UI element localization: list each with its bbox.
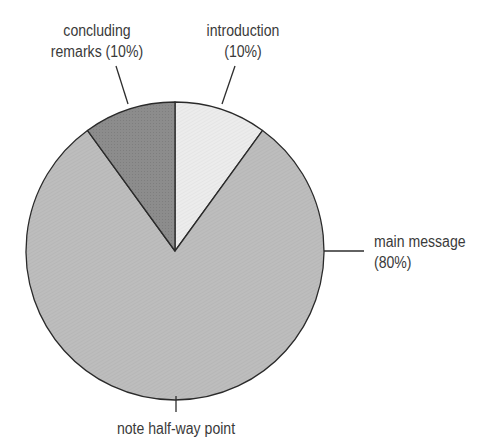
label-main-line2: (80%): [374, 252, 466, 273]
label-concluding: concluding remarks (10%): [44, 20, 150, 62]
label-main-message: main message (80%): [374, 231, 466, 273]
label-main-line1: main message: [374, 231, 466, 252]
label-halfway: note half-way point: [106, 418, 247, 439]
label-concluding-line2: remarks (10%): [44, 41, 150, 62]
label-concluding-line1: concluding: [44, 20, 150, 41]
label-introduction-line1: introduction: [190, 20, 296, 41]
leader-concluding: [116, 66, 128, 104]
leader-introduction: [222, 66, 235, 104]
label-introduction: introduction (10%): [190, 20, 296, 62]
label-halfway-text: note half-way point: [106, 418, 247, 439]
label-introduction-line2: (10%): [190, 41, 296, 62]
pie-chart: [0, 0, 504, 445]
